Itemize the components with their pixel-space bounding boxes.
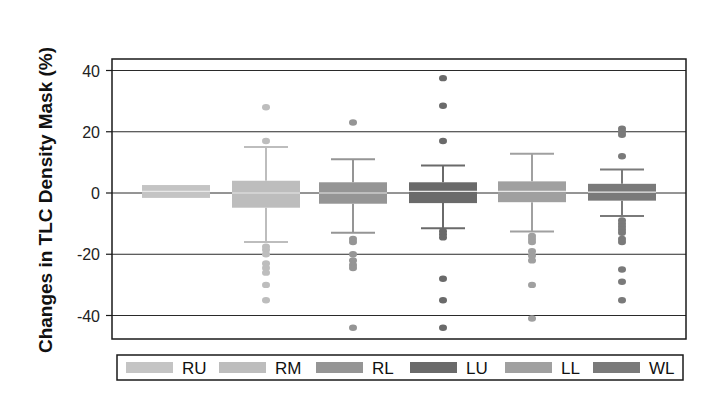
legend: RURMRLLULLWL — [117, 355, 683, 380]
box-wl — [588, 125, 656, 303]
outlier-point — [618, 230, 626, 236]
legend-swatch — [505, 362, 552, 373]
outlier-point — [349, 265, 357, 271]
outlier-point — [618, 297, 626, 303]
box-rm — [232, 104, 300, 303]
outlier-point — [528, 257, 536, 263]
legend-label: LU — [466, 359, 488, 378]
outlier-point — [349, 251, 357, 257]
box-iqr — [409, 182, 477, 203]
box-rl — [319, 119, 387, 331]
outlier-point — [618, 239, 626, 245]
legend-swatch — [593, 362, 640, 373]
y-tick-label: 20 — [82, 124, 100, 141]
outlier-point — [618, 132, 626, 138]
outlier-point — [262, 297, 270, 303]
outlier-point — [262, 138, 270, 144]
outlier-point — [439, 297, 447, 303]
y-axis-ticks: 40200-20-40 — [77, 63, 112, 325]
y-axis-title: Changes in TLC Density Mask (%) — [35, 47, 56, 353]
outlier-point — [349, 325, 357, 331]
legend-swatch — [219, 362, 266, 373]
outlier-point — [439, 138, 447, 144]
y-tick-label: 0 — [91, 185, 100, 202]
outlier-point — [528, 239, 536, 245]
outlier-point — [618, 279, 626, 285]
box-ll — [498, 154, 566, 322]
y-tick-label: 40 — [82, 63, 100, 80]
y-tick-label: -20 — [77, 246, 100, 263]
outlier-point — [349, 119, 357, 125]
outlier-point — [439, 325, 447, 331]
outlier-point — [439, 234, 447, 240]
outlier-point — [439, 276, 447, 282]
outlier-point — [618, 153, 626, 159]
legend-label: RM — [275, 359, 301, 378]
legend-label: RL — [372, 359, 394, 378]
box-plot-chart: Changes in TLC Density Mask (%) 40200-20… — [0, 0, 723, 410]
legend-label: LL — [561, 359, 580, 378]
outlier-point — [618, 266, 626, 272]
outlier-point — [349, 239, 357, 245]
box-lu — [409, 75, 477, 331]
box-ru — [142, 185, 210, 198]
legend-label: WL — [649, 359, 675, 378]
outlier-point — [262, 269, 270, 275]
legend-swatch — [126, 362, 173, 373]
outlier-point — [528, 315, 536, 321]
box-iqr — [232, 181, 300, 208]
legend-label: RU — [182, 359, 207, 378]
outlier-point — [439, 75, 447, 81]
outlier-point — [439, 103, 447, 109]
y-axis-title-text: Changes in TLC Density Mask (%) — [35, 47, 56, 353]
outlier-point — [262, 282, 270, 288]
outlier-point — [262, 104, 270, 110]
legend-swatch — [316, 362, 363, 373]
box-series — [142, 75, 656, 331]
outlier-point — [528, 282, 536, 288]
y-tick-label: -40 — [77, 308, 100, 325]
legend-swatch — [410, 362, 457, 373]
outlier-point — [262, 251, 270, 257]
